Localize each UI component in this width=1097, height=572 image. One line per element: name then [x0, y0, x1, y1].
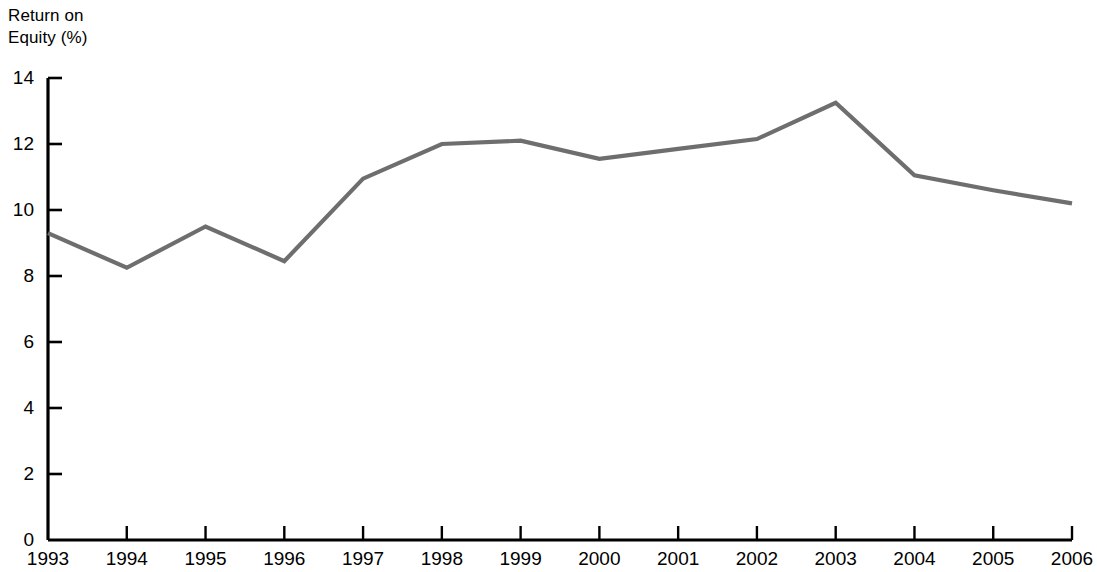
chart-axes [48, 78, 1072, 540]
data-series-group [48, 103, 1072, 268]
data-line-return-on-equity [48, 103, 1072, 268]
